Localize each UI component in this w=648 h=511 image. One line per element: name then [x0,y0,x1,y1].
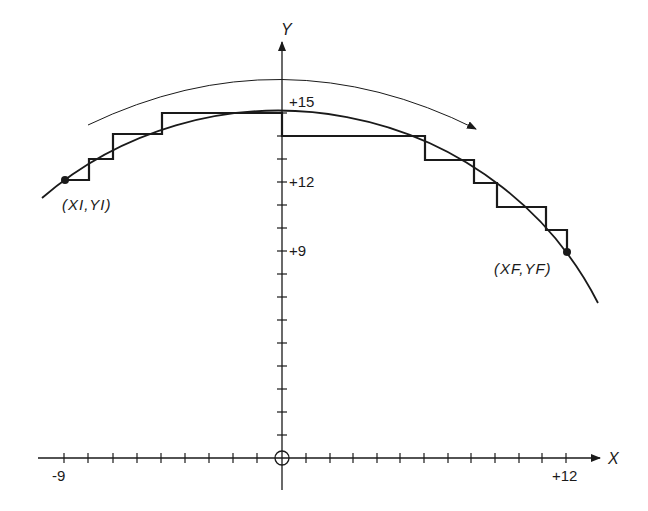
y-tick-label-9: +9 [289,242,306,259]
x-tick-label-min: -9 [52,467,65,484]
staircase-step-path [65,113,567,252]
start-point-marker [61,176,69,184]
y-tick-label-12: +12 [289,173,314,190]
x-tick-label-max: +12 [552,467,577,484]
end-point-label: (XF,YF) [494,260,552,277]
x-axis-label: X [607,450,620,467]
start-point-label: (XI,YI) [62,196,112,213]
end-point-marker [563,248,571,256]
x-axis: X -9 +12 [38,450,620,484]
y-tick-label-15: +15 [289,93,314,110]
y-axis-label: Y [281,21,293,38]
arc-staircase-diagram: X -9 +12 Y +15 +12 +9 [0,0,648,511]
y-axis: Y +15 +12 +9 [277,21,314,490]
